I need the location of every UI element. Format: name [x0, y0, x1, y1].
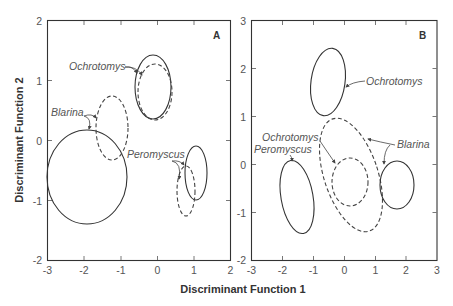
- panel-a-frame: [48, 21, 231, 261]
- panel-b-x-tick-labels: -3 -2 -1 0 1 2 3: [247, 264, 440, 276]
- arrow-b-ochrotomys: [320, 141, 335, 163]
- panel-b-y-tick-labels: 3 2 1 0 -1 -2: [237, 15, 247, 266]
- svg-text:1: 1: [373, 264, 379, 276]
- ellipse-a-ochrotomys-dashed: [138, 64, 172, 120]
- ellipse-b-ochrotomys-solid: [306, 46, 349, 118]
- arrow-a-blarina-2: [84, 116, 90, 129]
- svg-text:-3: -3: [43, 264, 52, 276]
- discriminant-chart: Discriminant Function 2 Discriminant Fun…: [0, 0, 453, 306]
- svg-text:-3: -3: [247, 264, 256, 276]
- panel-b-letter: B: [419, 30, 426, 41]
- svg-text:0: 0: [36, 135, 42, 147]
- label-b-peromyscus: Peromyscus: [254, 143, 313, 155]
- svg-text:-2: -2: [237, 254, 246, 266]
- arrow-a-ochrotomys-2: [125, 67, 142, 75]
- svg-text:-2: -2: [79, 264, 88, 276]
- ellipse-b-blarina-solid: [380, 161, 414, 209]
- svg-text:2: 2: [36, 15, 42, 27]
- svg-text:-1: -1: [309, 264, 318, 276]
- arrow-b-ochrotomys-top: [346, 81, 365, 87]
- svg-text:-1: -1: [33, 195, 42, 207]
- panel-a: A -3 -2 -1 0 1 2: [33, 15, 234, 276]
- label-b-ochrotomys: Ochrotomys: [262, 131, 319, 143]
- svg-text:3: 3: [434, 264, 440, 276]
- arrow-a-ochrotomys-1: [125, 67, 137, 73]
- label-a-ochrotomys: Ochrotomys: [69, 60, 126, 72]
- ellipse-b-ochrotomys-dashed: [332, 158, 368, 206]
- y-axis-title: Discriminant Function 2: [13, 77, 25, 202]
- panel-b: B -3 -2 -1 0 1 2 3: [237, 15, 440, 276]
- ellipse-a-blarina-solid: [47, 130, 127, 224]
- arrow-b-blarina-2: [384, 145, 390, 164]
- svg-text:1: 1: [191, 264, 197, 276]
- panel-a-letter: A: [213, 30, 220, 41]
- svg-text:-1: -1: [116, 264, 125, 276]
- panel-a-y-ticks: [48, 81, 230, 201]
- svg-text:0: 0: [155, 264, 161, 276]
- svg-text:-2: -2: [278, 264, 287, 276]
- svg-text:2: 2: [228, 264, 234, 276]
- svg-text:0: 0: [240, 159, 246, 171]
- svg-text:0: 0: [342, 264, 348, 276]
- label-a-peromyscus: Peromyscus: [127, 148, 186, 160]
- arrow-a-peromyscus-2: [172, 161, 180, 179]
- ellipse-a-peromyscus-solid: [185, 146, 207, 200]
- label-a-blarina: Blarina: [51, 106, 84, 118]
- panel-a-x-ticks: [84, 21, 194, 260]
- svg-text:1: 1: [36, 75, 42, 87]
- svg-text:2: 2: [403, 264, 409, 276]
- x-axis-title: Discriminant Function 1: [180, 283, 305, 295]
- label-b-blarina: Blarina: [397, 138, 430, 150]
- svg-text:3: 3: [240, 15, 246, 27]
- ellipse-a-blarina-dashed: [96, 96, 128, 160]
- svg-text:1: 1: [240, 111, 246, 123]
- arrow-b-blarina-1: [368, 139, 395, 145]
- ellipse-b-peromyscus-solid: [275, 158, 319, 236]
- svg-text:-2: -2: [33, 254, 42, 266]
- svg-text:2: 2: [240, 63, 246, 75]
- svg-text:-1: -1: [237, 207, 246, 219]
- label-b-ochrotomys-top: Ochrotomys: [366, 75, 423, 87]
- panel-a-x-tick-labels: -3 -2 -1 0 1 2: [43, 264, 234, 276]
- panel-a-y-tick-labels: 2 1 0 -1 -2: [33, 15, 43, 266]
